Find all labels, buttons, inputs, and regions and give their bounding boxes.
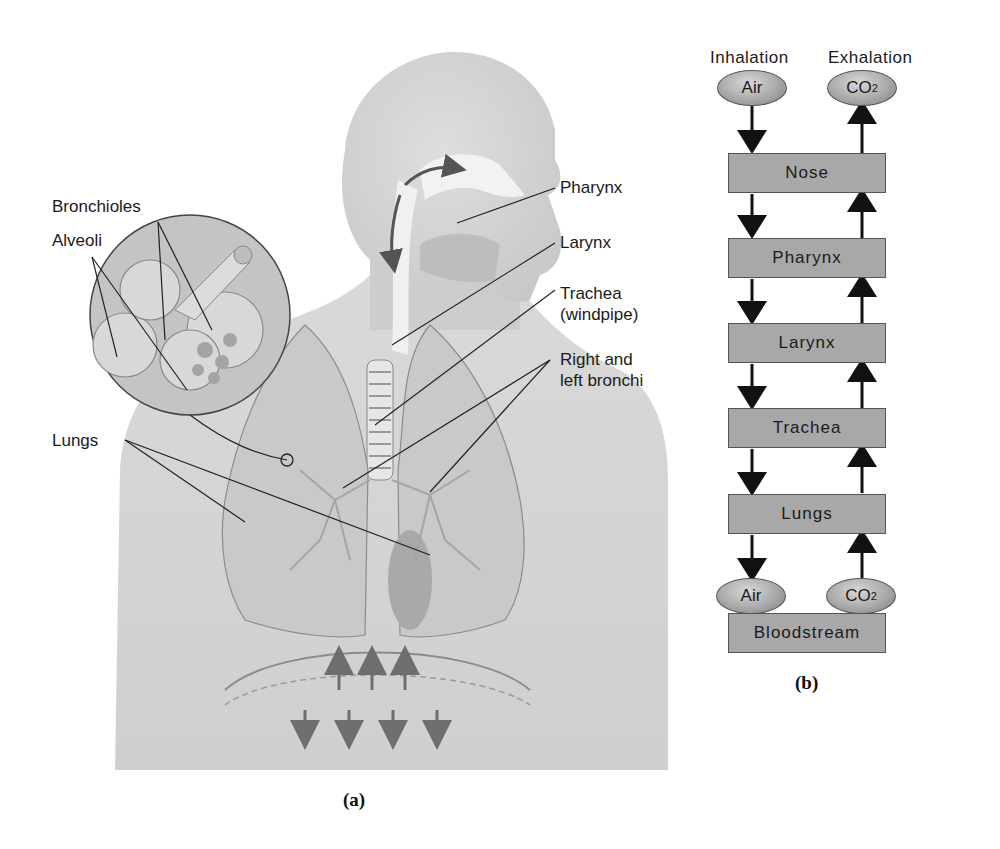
- oval-co2-top: CO2: [827, 70, 897, 106]
- box-lungs: Lungs: [728, 494, 886, 534]
- box-trachea: Trachea: [728, 408, 886, 448]
- box-bloodstream: Bloodstream: [728, 613, 886, 653]
- header-exhalation: Exhalation: [828, 48, 912, 68]
- caption-b: (b): [795, 672, 818, 694]
- box-larynx: Larynx: [728, 323, 886, 363]
- oval-air-bottom: Air: [716, 578, 786, 614]
- header-inhalation: Inhalation: [710, 48, 789, 68]
- oval-air-top: Air: [717, 70, 787, 106]
- box-nose: Nose: [728, 153, 886, 193]
- respiratory-system-figure: Bronchioles Alveoli Lungs Pharynx Larynx…: [0, 0, 1000, 849]
- oval-co2-bottom: CO2: [826, 578, 896, 614]
- box-pharynx: Pharynx: [728, 238, 886, 278]
